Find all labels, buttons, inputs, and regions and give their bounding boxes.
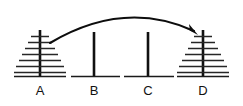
- diagram-canvas: A B C: [0, 0, 243, 106]
- peg-label-a: A: [36, 83, 45, 98]
- peg-label-c: C: [143, 83, 152, 98]
- peg-label-b: B: [90, 83, 99, 98]
- hanoi-diagram: A B C: [0, 0, 243, 106]
- peg-label-d: D: [198, 83, 207, 98]
